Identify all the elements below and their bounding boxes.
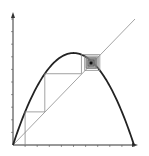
parabola-curve <box>13 53 134 145</box>
diagonal-line <box>13 19 135 145</box>
y-axis-arrow-icon <box>11 12 15 18</box>
cobweb-diagram <box>0 0 149 156</box>
